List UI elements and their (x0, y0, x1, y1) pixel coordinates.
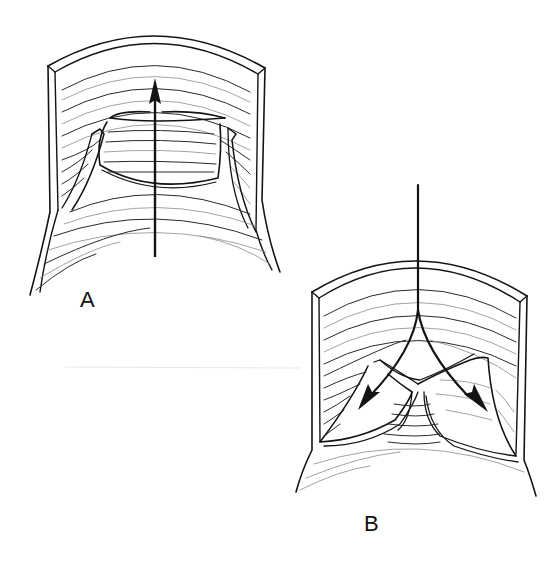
panel-b-vein (296, 185, 536, 496)
illustration (0, 0, 559, 563)
panel-b-label: B (364, 513, 379, 535)
panel-a-label: A (80, 289, 95, 311)
panel-a-vein (30, 36, 280, 295)
flow-arrow-left-branch-icon (370, 310, 418, 396)
flow-arrow-right-branch-icon (418, 310, 468, 396)
